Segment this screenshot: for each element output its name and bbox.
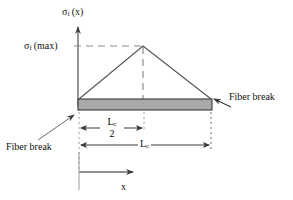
half-lc-subscript: c [114, 120, 117, 127]
figure-root: σf (x) σf (max) Fiber break Fiber break … [0, 0, 293, 200]
annotation-fiber-break-right: Fiber break [229, 92, 275, 102]
dimension-label-full-lc: Lc [138, 139, 151, 150]
annotation-fiber-break-left: Fiber break [6, 142, 52, 152]
sigma-max-arg: (max) [34, 40, 58, 51]
x-axis-label: x [121, 182, 126, 192]
sigma-max-subscript: f [29, 44, 31, 51]
y-axis-label: σf (x) [62, 7, 83, 18]
y-axis-label-arg: (x) [72, 6, 84, 17]
y-axis-label-subscript: f [67, 10, 69, 17]
full-lc-subscript: c [146, 142, 149, 149]
leader-arrow-fiber-break-left [38, 115, 74, 140]
dimension-label-half-lc-denominator: 2 [100, 128, 124, 140]
y-axis-tick-label-sigma-max: σf (max) [24, 41, 58, 52]
dimension-label-half-lc: Lc 2 [100, 116, 124, 140]
stress-profile-triangle [79, 46, 211, 99]
fiber-bar [78, 99, 212, 110]
dimension-label-half-lc-numerator: Lc [100, 116, 124, 128]
